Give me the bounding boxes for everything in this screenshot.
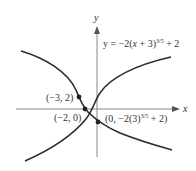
equation-suffix: + 2 [164, 38, 180, 49]
point-neg2-0 [83, 107, 88, 112]
x-axis-arrow-icon [172, 106, 180, 112]
equation-exponent: 3/5 [156, 38, 164, 44]
equation-prefix: y = −2( [103, 38, 133, 49]
x-axis-label: x [183, 104, 187, 114]
point-neg3-2 [77, 95, 82, 100]
y-axis-label: y [94, 13, 98, 23]
graph-canvas [0, 0, 196, 171]
point-label-neg2-0: (−2, 0) [54, 113, 81, 123]
point-label-neg3-2: (−3, 2) [46, 93, 73, 103]
y-intercept-prefix: (0, −2(3) [105, 113, 141, 124]
point-y-intercept [96, 120, 101, 125]
y-axis-arrow-icon [94, 26, 100, 34]
y-intercept-suffix: + 2) [148, 113, 167, 124]
equation-label: y = −2(x + 3)3/5 + 2 [103, 39, 179, 49]
equation-mid: + 3) [137, 38, 156, 49]
function-graph-figure: y x y = −2(x + 3)3/5 + 2 (−3, 2) (−2, 0)… [0, 0, 196, 171]
point-label-y-intercept: (0, −2(3)3/5 + 2) [105, 114, 167, 124]
